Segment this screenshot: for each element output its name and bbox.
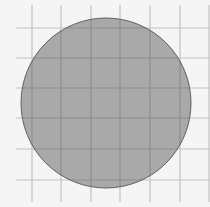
circle-grid-diagram xyxy=(0,0,210,207)
diagram-canvas xyxy=(0,0,210,207)
filled-circle xyxy=(21,18,191,188)
